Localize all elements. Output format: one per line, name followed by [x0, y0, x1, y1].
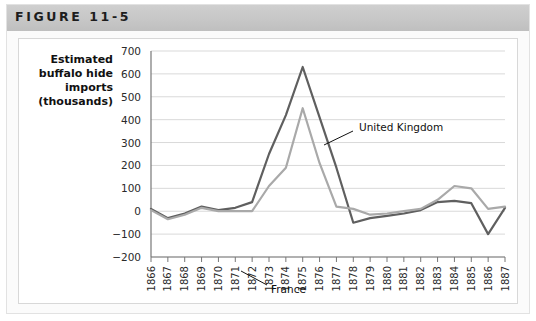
x-axis-tick-label: 1870 [213, 266, 224, 291]
x-axis-tick-label: 1886 [483, 266, 494, 291]
figure-title: FIGURE 11-5 [15, 9, 131, 24]
x-axis-tick-label: 1887 [500, 266, 511, 291]
y-axis-tick-label: 400 [121, 114, 141, 126]
y-axis-tick-label: 100 [121, 182, 141, 194]
x-axis-tick-label: 1885 [466, 266, 477, 291]
x-axis-tick-label: 1884 [449, 266, 460, 291]
line-chart: 7006005004003002001000−100−2001866186718… [19, 39, 517, 303]
x-axis-tick-label: 1880 [382, 266, 393, 291]
x-axis-tick-label: 1867 [162, 266, 173, 291]
x-axis-tick-label: 1876 [314, 266, 325, 291]
y-axis-title-line: buffalo hide [39, 67, 113, 80]
plot-card: 7006005004003002001000−100−2001866186718… [18, 38, 518, 304]
x-axis-tick-label: 1871 [230, 266, 241, 291]
x-axis-tick-label: 1879 [365, 266, 376, 291]
x-axis-tick-label: 1866 [146, 266, 157, 291]
x-axis-tick-label: 1868 [179, 266, 190, 291]
y-axis-title-line: imports [65, 81, 113, 94]
figure-container: FIGURE 11-5 7006005004003002001000−100−2… [0, 0, 536, 321]
y-axis-title-line: Estimated [50, 53, 113, 66]
y-axis-title-line: (thousands) [38, 95, 113, 108]
y-axis-tick-label: 0 [134, 205, 141, 217]
x-axis-tick-label: 1869 [196, 266, 207, 291]
y-axis-tick-label: 200 [121, 159, 141, 171]
annotation-label: France [271, 283, 306, 295]
x-axis-tick-label: 1877 [331, 266, 342, 291]
series-line-france [151, 108, 505, 219]
y-axis-tick-label: 500 [121, 91, 141, 103]
y-axis-tick-label: 700 [121, 45, 141, 57]
x-axis-tick-label: 1881 [398, 266, 409, 291]
y-axis-tick-label: −100 [112, 228, 141, 240]
y-axis-tick-label: 300 [121, 137, 141, 149]
annotation-label: United Kingdom [359, 121, 443, 133]
y-axis-tick-label: 600 [121, 68, 141, 80]
x-axis-tick-label: 1883 [432, 266, 443, 291]
x-axis-tick-label: 1882 [415, 266, 426, 291]
x-axis-tick-label: 1878 [348, 266, 359, 291]
y-axis-tick-label: −200 [112, 251, 141, 263]
